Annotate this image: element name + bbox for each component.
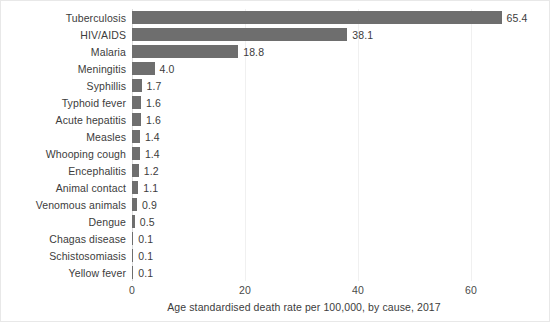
plot-area: Tuberculosis65.4HIV/AIDS38.1Malaria18.8M… [132, 9, 540, 281]
bar-value-label: 0.9 [142, 199, 157, 211]
x-axis: 0204060 [132, 284, 540, 300]
bar-row[interactable]: Meningitis4.0 [132, 60, 540, 77]
bar[interactable] [132, 45, 238, 58]
category-label: Whooping cough [46, 148, 126, 160]
category-label: Malaria [91, 46, 126, 58]
bar[interactable] [132, 266, 133, 279]
bar[interactable] [132, 249, 133, 262]
category-label: Dengue [89, 216, 126, 228]
bar-row[interactable]: Schistosomiasis0.1 [132, 247, 540, 264]
bar[interactable] [132, 11, 502, 24]
bar-row[interactable]: Syphillis1.7 [132, 77, 540, 94]
bar[interactable] [132, 28, 347, 41]
bar-value-label: 0.5 [140, 216, 155, 228]
category-label: Venomous animals [36, 199, 126, 211]
bar-value-label: 1.4 [145, 148, 160, 160]
bar-value-label: 1.2 [144, 165, 159, 177]
category-label: HIV/AIDS [80, 29, 126, 41]
category-label: Schistosomiasis [49, 250, 126, 262]
bar[interactable] [132, 181, 138, 194]
bar-row[interactable]: Malaria18.8 [132, 43, 540, 60]
bar-row[interactable]: Yellow fever0.1 [132, 264, 540, 281]
bar-row[interactable]: Measles1.4 [132, 128, 540, 145]
bar-row[interactable]: Acute hepatitis1.6 [132, 111, 540, 128]
bar[interactable] [132, 79, 142, 92]
bar-row[interactable]: Tuberculosis65.4 [132, 9, 540, 26]
bar-value-label: 65.4 [507, 12, 528, 24]
bar-value-label: 1.4 [145, 131, 160, 143]
bar[interactable] [132, 215, 135, 228]
category-label: Typhoid fever [62, 97, 126, 109]
bar[interactable] [132, 113, 141, 126]
x-axis-title-text: Age standardised death rate per 100,000,… [109, 301, 440, 313]
bar[interactable] [132, 232, 133, 245]
bar-row[interactable]: Animal contact1.1 [132, 179, 540, 196]
bar[interactable] [132, 164, 139, 177]
bar-value-label: 38.1 [352, 29, 373, 41]
bar-value-label: 1.6 [146, 114, 161, 126]
bar-row[interactable]: Chagas disease0.1 [132, 230, 540, 247]
bar-row[interactable]: Dengue0.5 [132, 213, 540, 230]
bar-value-label: 0.1 [138, 233, 153, 245]
bar-value-label: 4.0 [160, 63, 175, 75]
bar-row[interactable]: Whooping cough1.4 [132, 145, 540, 162]
bar[interactable] [132, 198, 137, 211]
x-tick-label-20: 20 [239, 284, 251, 296]
category-label: Chagas disease [49, 233, 126, 245]
bar[interactable] [132, 96, 141, 109]
category-label: Acute hepatitis [56, 114, 126, 126]
bar-value-label: 18.8 [243, 46, 264, 58]
category-label: Syphillis [87, 80, 126, 92]
category-label: Meningitis [78, 63, 126, 75]
bar-value-label: 0.1 [138, 267, 153, 279]
category-label: Yellow fever [69, 267, 126, 279]
bar-value-label: 0.1 [138, 250, 153, 262]
x-axis-title: Age standardised death rate per 100,000,… [1, 301, 549, 313]
bar[interactable] [132, 147, 140, 160]
bar-value-label: 1.1 [143, 182, 158, 194]
bar-row[interactable]: Encephalitis1.2 [132, 162, 540, 179]
category-label: Measles [86, 131, 126, 143]
bar-row[interactable]: Typhoid fever1.6 [132, 94, 540, 111]
category-label: Encephalitis [68, 165, 126, 177]
category-label: Tuberculosis [66, 12, 126, 24]
bar-row[interactable]: Venomous animals0.9 [132, 196, 540, 213]
bar-chart: Tuberculosis65.4HIV/AIDS38.1Malaria18.8M… [0, 0, 550, 322]
bar-row[interactable]: HIV/AIDS38.1 [132, 26, 540, 43]
bar[interactable] [132, 130, 140, 143]
bar-value-label: 1.6 [146, 97, 161, 109]
bar[interactable] [132, 62, 155, 75]
x-tick-label-0: 0 [129, 284, 135, 296]
x-tick-label-40: 40 [352, 284, 364, 296]
bar-value-label: 1.7 [147, 80, 162, 92]
category-label: Animal contact [56, 182, 126, 194]
x-tick-label-60: 60 [465, 284, 477, 296]
